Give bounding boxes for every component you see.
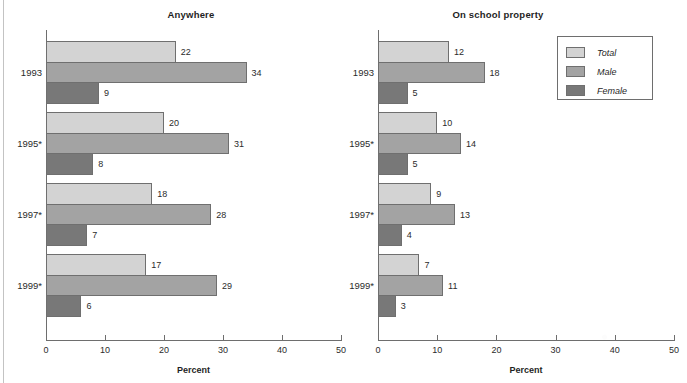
x-axis-tick-label: 10 — [432, 345, 442, 355]
bar-value-label: 8 — [98, 159, 103, 169]
x-axis-tick — [437, 335, 438, 340]
bar-value-label: 13 — [460, 210, 470, 220]
bar-anywhere-1999-male — [46, 275, 217, 297]
x-axis-tick-label: 0 — [43, 345, 48, 355]
bar-value-label: 22 — [181, 47, 191, 57]
legend: TotalMaleFemale — [557, 36, 653, 100]
bar-on-school-property-1997-female — [378, 224, 402, 246]
bar-value-label: 5 — [413, 88, 418, 98]
bar-on-school-property-1993-female — [378, 82, 408, 104]
bar-value-label: 3 — [401, 301, 406, 311]
bar-value-label: 6 — [86, 301, 91, 311]
x-axis-tick — [674, 335, 675, 340]
x-axis-tick-label: 20 — [159, 345, 169, 355]
bar-anywhere-1997-female — [46, 224, 87, 246]
category-label-anywhere-1: 1995* — [0, 138, 42, 149]
x-axis-line — [46, 340, 342, 341]
bar-on-school-property-1997-male — [378, 204, 455, 226]
legend-item-total: Total — [566, 46, 616, 59]
legend-swatch-female — [566, 85, 585, 96]
chart-title-on-school-property: On school property — [452, 9, 543, 20]
bar-on-school-property-1997-total — [378, 183, 431, 205]
bar-anywhere-1993-female — [46, 82, 99, 104]
category-label-anywhere-0: 1993 — [0, 67, 42, 78]
bar-on-school-property-1999-male — [378, 275, 443, 297]
category-label-on-school-property-0: 1993 — [314, 67, 374, 78]
bar-value-label: 9 — [436, 189, 441, 199]
bar-anywhere-1997-male — [46, 204, 211, 226]
bar-value-label: 7 — [424, 260, 429, 270]
bar-anywhere-1995-female — [46, 153, 93, 175]
x-axis-tick — [46, 335, 47, 340]
figure-root: Anywhere01020304050Percent1993223491995*… — [0, 0, 687, 383]
x-axis-tick — [556, 335, 557, 340]
x-axis-tick — [282, 335, 283, 340]
bar-on-school-property-1995-total — [378, 112, 437, 134]
bar-value-label: 31 — [234, 139, 244, 149]
bar-value-label: 18 — [157, 189, 167, 199]
category-label-on-school-property-1: 1995* — [314, 138, 374, 149]
x-axis-tick-label: 40 — [610, 345, 620, 355]
legend-item-female: Female — [566, 84, 627, 97]
bar-value-label: 34 — [252, 68, 262, 78]
legend-label-total: Total — [597, 48, 616, 58]
x-axis-tick — [496, 335, 497, 340]
bar-value-label: 7 — [92, 230, 97, 240]
bar-value-label: 10 — [442, 118, 452, 128]
legend-item-male: Male — [566, 65, 617, 78]
bar-value-label: 11 — [448, 281, 457, 291]
x-axis-tick-label: 50 — [336, 345, 346, 355]
bar-value-label: 29 — [222, 281, 232, 291]
x-axis-tick-label: 30 — [551, 345, 561, 355]
category-label-on-school-property-2: 1997* — [314, 209, 374, 220]
bar-value-label: 14 — [466, 139, 476, 149]
x-axis-tick-label: 0 — [375, 345, 380, 355]
x-axis-tick — [105, 335, 106, 340]
bar-value-label: 12 — [454, 47, 464, 57]
x-axis-tick — [223, 335, 224, 340]
category-label-anywhere-3: 1999* — [0, 280, 42, 291]
x-axis-tick — [341, 335, 342, 340]
bar-anywhere-1993-total — [46, 41, 176, 63]
x-axis-tick — [378, 335, 379, 340]
bar-value-label: 4 — [407, 230, 412, 240]
bar-value-label: 9 — [104, 88, 109, 98]
bar-anywhere-1999-total — [46, 254, 146, 276]
bar-on-school-property-1995-male — [378, 133, 461, 155]
x-axis-tick — [615, 335, 616, 340]
bar-anywhere-1997-total — [46, 183, 152, 205]
bar-value-label: 17 — [151, 260, 161, 270]
legend-swatch-total — [566, 47, 585, 58]
bar-on-school-property-1995-female — [378, 153, 408, 175]
legend-label-female: Female — [597, 86, 627, 96]
legend-label-male: Male — [597, 67, 617, 77]
x-axis-tick-label: 10 — [100, 345, 110, 355]
x-axis-tick-label: 20 — [491, 345, 501, 355]
bar-anywhere-1993-male — [46, 62, 247, 84]
x-axis-tick-label: 30 — [218, 345, 228, 355]
bar-value-label: 20 — [169, 118, 179, 128]
x-axis-line — [378, 340, 675, 341]
bar-value-label: 18 — [490, 68, 500, 78]
bar-anywhere-1995-total — [46, 112, 164, 134]
bar-on-school-property-1999-female — [378, 295, 396, 317]
bar-value-label: 5 — [413, 159, 418, 169]
bar-on-school-property-1993-male — [378, 62, 485, 84]
x-axis-tick-label: 50 — [669, 345, 679, 355]
category-label-on-school-property-3: 1999* — [314, 280, 374, 291]
bar-on-school-property-1993-total — [378, 41, 449, 63]
bar-anywhere-1999-female — [46, 295, 81, 317]
x-axis-tick — [164, 335, 165, 340]
chart-title-anywhere: Anywhere — [167, 9, 214, 20]
x-axis-tick-label: 40 — [277, 345, 287, 355]
x-axis-label: Percent — [177, 365, 210, 375]
bar-on-school-property-1999-total — [378, 254, 419, 276]
scan-edge-artifact — [3, 0, 4, 383]
bar-value-label: 28 — [216, 210, 226, 220]
x-axis-label: Percent — [509, 365, 542, 375]
legend-swatch-male — [566, 66, 585, 77]
category-label-anywhere-2: 1997* — [0, 209, 42, 220]
bar-anywhere-1995-male — [46, 133, 229, 155]
